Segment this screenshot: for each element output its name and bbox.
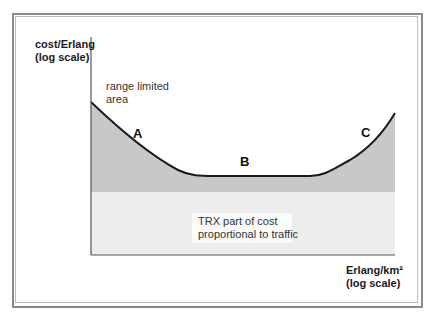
range-limited-note: range limited area [106,80,169,106]
x-axis-label-line1: Erlang/km² [346,264,403,277]
marker-a: A [133,126,142,142]
trx-note-line1: TRX part of cost [198,215,298,228]
cost-area-fill [91,102,395,192]
trx-note: TRX part of cost proportional to traffic [198,215,298,241]
trx-note-line2: proportional to traffic [198,228,298,241]
marker-c: C [361,125,370,141]
y-axis-label: cost/Erlang (log scale) [35,38,95,64]
y-axis-label-line1: cost/Erlang [35,38,95,51]
marker-b: B [240,154,249,170]
x-axis-label: Erlang/km² (log scale) [346,264,403,290]
range-limited-line1: range limited [106,80,169,93]
y-axis-label-line2: (log scale) [35,51,95,64]
x-axis-label-line2: (log scale) [346,277,403,290]
range-limited-line2: area [106,93,169,106]
